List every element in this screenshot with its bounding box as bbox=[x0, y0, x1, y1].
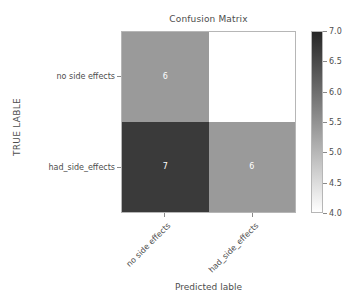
colorbar-tick-mark-0 bbox=[323, 31, 327, 32]
x-tick-label-0: no side effects bbox=[49, 221, 173, 308]
colorbar-tick-mark-1 bbox=[323, 61, 327, 62]
y-axis-title: TRUE LABLE bbox=[12, 87, 22, 167]
x-tick-mark-0 bbox=[164, 213, 165, 217]
colorbar-tick-label-1: 6.5 bbox=[329, 57, 342, 66]
colorbar-tick-label-3: 5.5 bbox=[329, 118, 342, 127]
y-tick-mark-1 bbox=[117, 167, 121, 168]
y-tick-label-1: had_side_effects bbox=[49, 163, 116, 172]
chart-title: Confusion Matrix bbox=[121, 14, 296, 24]
matrix-cell-1-0: 7 bbox=[122, 122, 209, 212]
colorbar-tick-label-6: 4.0 bbox=[329, 209, 342, 218]
cell-value: 6 bbox=[249, 163, 254, 171]
colorbar-tick-mark-5 bbox=[323, 183, 327, 184]
cell-value: 7 bbox=[163, 163, 168, 171]
y-tick-mark-0 bbox=[117, 76, 121, 77]
colorbar-tick-mark-4 bbox=[323, 152, 327, 153]
cell-value: 6 bbox=[163, 73, 168, 81]
matrix-cell-0-1 bbox=[209, 32, 296, 122]
x-axis-title: Predicted lable bbox=[121, 282, 296, 292]
colorbar-tick-label-2: 6.0 bbox=[329, 87, 342, 96]
colorbar-tick-label-0: 7.0 bbox=[329, 27, 342, 36]
colorbar-tick-mark-6 bbox=[323, 213, 327, 214]
heatmap-plot-area: 6 7 6 bbox=[121, 31, 296, 213]
colorbar-tick-mark-3 bbox=[323, 122, 327, 123]
colorbar-gradient bbox=[311, 31, 323, 213]
x-tick-mark-1 bbox=[252, 213, 253, 217]
colorbar: 7.06.56.05.55.04.54.0 bbox=[311, 31, 323, 213]
y-tick-label-0: no side effects bbox=[57, 72, 116, 81]
confusion-matrix-figure: Confusion Matrix 6 7 6 no side effects h… bbox=[0, 0, 358, 308]
matrix-cell-0-0: 6 bbox=[122, 32, 209, 122]
matrix-cell-1-1: 6 bbox=[209, 122, 296, 212]
colorbar-tick-label-4: 5.0 bbox=[329, 148, 342, 157]
colorbar-tick-label-5: 4.5 bbox=[329, 178, 342, 187]
colorbar-tick-mark-2 bbox=[323, 92, 327, 93]
